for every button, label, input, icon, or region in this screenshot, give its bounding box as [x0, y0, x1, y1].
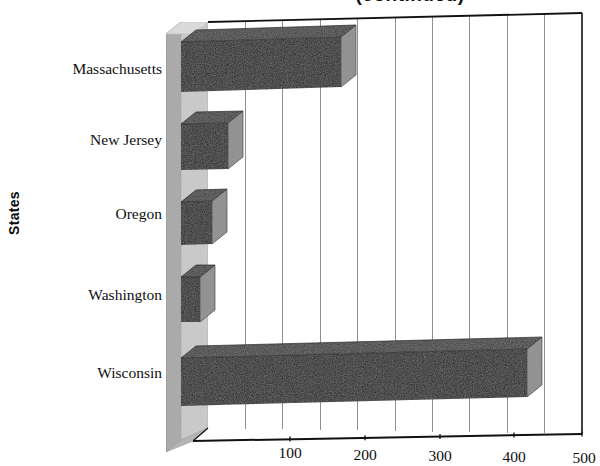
x-tick-label-500: 500	[562, 449, 600, 466]
x-tick-label-100: 100	[268, 444, 312, 462]
bar-new-jersey[interactable]	[181, 111, 243, 170]
bar-massachusetts[interactable]	[181, 25, 356, 92]
x-tick-label-400: 400	[492, 448, 536, 466]
bar-washington[interactable]	[181, 265, 215, 322]
x-tick-label-300: 300	[418, 447, 462, 465]
x-tick-label-200: 200	[343, 446, 387, 464]
bar-oregon[interactable]	[181, 189, 227, 245]
bar-wisconsin[interactable]	[181, 337, 542, 406]
